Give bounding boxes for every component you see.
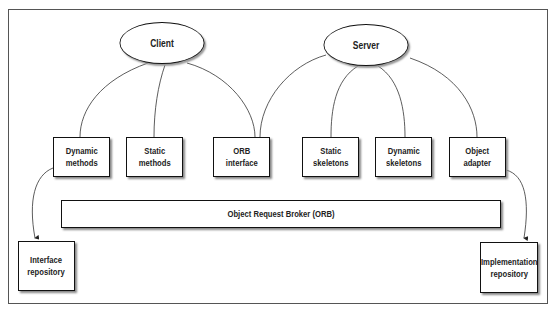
object-adapter-line2: adapter bbox=[464, 157, 492, 169]
static-skeletons-box: Static skeletons bbox=[302, 137, 359, 177]
server-node: Server bbox=[324, 24, 409, 66]
arrow-to-interface-repository bbox=[32, 168, 53, 238]
orb-interface-line2: interface bbox=[226, 157, 258, 169]
object-adapter-box: Object adapter bbox=[449, 137, 506, 177]
edge-server-object-adapter bbox=[410, 58, 477, 137]
dynamic-methods-box: Dynamic methods bbox=[53, 137, 110, 177]
interface-repository-box: Interface repository bbox=[18, 241, 75, 291]
edge-server-dynamic-skeletons bbox=[378, 66, 405, 137]
static-methods-line2: methods bbox=[139, 157, 171, 169]
static-skeletons-line2: skeletons bbox=[313, 157, 348, 169]
edge-client-orb-interface bbox=[187, 63, 255, 137]
dynamic-skeletons-line1: Dynamic bbox=[386, 145, 421, 157]
dynamic-methods-line2: methods bbox=[66, 157, 98, 169]
client-node: Client bbox=[120, 22, 205, 64]
dynamic-skeletons-line2: skeletons bbox=[386, 157, 421, 169]
edge-client-static-methods bbox=[154, 65, 165, 137]
orb-label: Object Request Broker (ORB) bbox=[227, 208, 334, 220]
server-label: Server bbox=[353, 40, 379, 51]
orb-interface-box: ORB interface bbox=[213, 137, 270, 177]
object-adapter-line1: Object bbox=[464, 145, 492, 157]
static-methods-box: Static methods bbox=[126, 137, 183, 177]
edge-server-orb-interface bbox=[260, 55, 326, 137]
edge-client-dynamic-methods bbox=[80, 63, 148, 137]
orb-interface-line1: ORB bbox=[226, 145, 258, 157]
edge-server-static-skeletons bbox=[331, 66, 358, 137]
implementation-repository-line2: repository bbox=[481, 268, 538, 280]
arrow-to-implementation-repository bbox=[506, 170, 526, 238]
orb-bar: Object Request Broker (ORB) bbox=[61, 200, 501, 228]
dynamic-methods-line1: Dynamic bbox=[66, 145, 98, 157]
dynamic-skeletons-box: Dynamic skeletons bbox=[375, 137, 432, 177]
implementation-repository-box: Implementation repository bbox=[480, 242, 538, 293]
static-skeletons-line1: Static bbox=[313, 145, 348, 157]
static-methods-line1: Static bbox=[139, 145, 171, 157]
interface-repository-line1: Interface bbox=[28, 254, 65, 266]
client-label: Client bbox=[150, 38, 174, 49]
implementation-repository-line1: Implementation bbox=[481, 256, 538, 268]
interface-repository-line2: repository bbox=[28, 266, 65, 278]
